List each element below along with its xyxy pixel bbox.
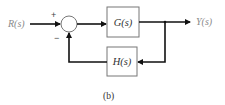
block-diagram: R(s) + − G(s) Y(s) H(s) (b)	[0, 0, 225, 105]
input-signal-label: R(s)	[7, 18, 25, 30]
feedback-block-label: H(s)	[112, 56, 132, 68]
summing-junction	[61, 16, 77, 32]
output-signal-label: Y(s)	[196, 16, 213, 28]
feedback-branch-line	[138, 22, 165, 62]
forward-block-label: G(s)	[114, 17, 133, 29]
feedback-return-line	[69, 33, 107, 62]
plus-sign: +	[51, 10, 56, 20]
figure-caption: (b)	[103, 91, 114, 102]
minus-sign: −	[54, 33, 59, 43]
